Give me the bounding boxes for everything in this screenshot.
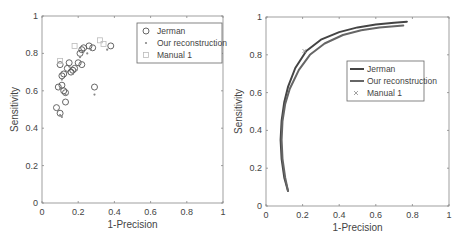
legend: JermanOur reconstructionManual 1 [347,61,437,101]
y-axis-label: Sensitivity [9,87,20,132]
legend-label: Our reconstruction [367,76,437,86]
dot-marker-icon [145,42,147,44]
scatter-chart: 00.20.40.60.8100.20.40.60.811-PrecisionS… [0,0,232,245]
curve [282,26,404,191]
circle-marker-icon [77,50,83,56]
y-tick-label: 0 [257,201,262,211]
legend-label: Our reconstruction [157,38,227,48]
y-tick-label: 0.6 [249,88,262,98]
y-tick-label: 0.4 [25,123,38,133]
circle-marker-icon [53,105,59,111]
square-marker-icon [72,43,77,48]
dot-marker-icon [61,78,63,80]
x-tick-label: 0.8 [181,207,194,217]
circle-marker-icon [86,43,92,49]
y-tick-label: 0.8 [25,48,38,58]
dot-marker-icon [79,56,81,58]
circle-marker-icon [79,62,85,68]
dot-marker-icon [59,88,61,90]
y-tick-label: 0.8 [249,50,262,60]
circle-marker-icon [66,60,72,66]
dot-marker-icon [106,49,108,51]
series-jerman [281,22,407,191]
y-tick-label: 0.2 [249,163,262,173]
circle-marker-icon [91,84,97,90]
dot-marker-icon [90,49,92,51]
y-tick-label: 0.4 [249,125,262,135]
x-tick-label: 0.2 [296,210,309,220]
legend: JermanOur reconstructionManual 1 [137,23,227,63]
dot-marker-icon [66,71,68,73]
scatter-plot-svg: 00.20.40.60.8100.20.40.60.811-PrecisionS… [0,0,232,245]
legend-label: Manual 1 [157,50,192,60]
circle-marker-icon [63,99,69,105]
square-marker-icon [101,42,106,47]
dot-marker-icon [93,93,95,95]
square-marker-icon [97,38,102,43]
series-our-reconstruction [282,26,404,191]
plot-frame [266,17,449,206]
dot-marker-icon [59,114,61,116]
x-tick-label: 0.4 [108,207,121,217]
x-tick-label: 0.6 [370,210,383,220]
y-tick-label: 0 [33,198,38,208]
dot-marker-icon [86,52,88,54]
line-plot-svg: 00.20.40.60.8100.20.40.60.811-PrecisionS… [232,0,465,245]
x-axis-label: 1-Precision [107,219,157,230]
y-tick-label: 0.2 [25,161,38,171]
circle-marker-icon [75,60,81,66]
x-tick-label: 1 [220,207,225,217]
dot-marker-icon [68,65,70,67]
circle-marker-icon [108,43,114,49]
line-chart: 00.20.40.60.8100.20.40.60.811-PrecisionS… [232,0,465,245]
x-tick-label: 0 [263,210,268,220]
legend-label: Jerman [367,64,396,74]
dot-marker-icon [83,50,85,52]
y-axis-label: Sensitivity [233,89,244,134]
dot-marker-icon [75,69,77,71]
x-tick-label: 0.2 [72,207,85,217]
y-tick-label: 0.6 [25,86,38,96]
y-tick-label: 1 [33,11,38,21]
legend-item: Our reconstruction [145,38,227,48]
x-tick-label: 0 [39,207,44,217]
x-tick-label: 0.6 [144,207,157,217]
dot-marker-icon [64,93,66,95]
y-tick-label: 1 [257,12,262,22]
x-tick-label: 1 [446,210,451,220]
circle-marker-icon [59,82,65,88]
x-tick-label: 0.4 [333,210,346,220]
dot-marker-icon [72,73,74,75]
x-tick-label: 0.8 [406,210,419,220]
legend-label: Manual 1 [367,88,402,98]
circle-marker-icon [57,62,63,68]
x-axis-label: 1-Precision [332,222,382,233]
legend-label: Jerman [157,26,186,36]
dot-marker-icon [61,116,63,118]
series-our-reconstruction [59,49,108,119]
curve [281,22,407,191]
